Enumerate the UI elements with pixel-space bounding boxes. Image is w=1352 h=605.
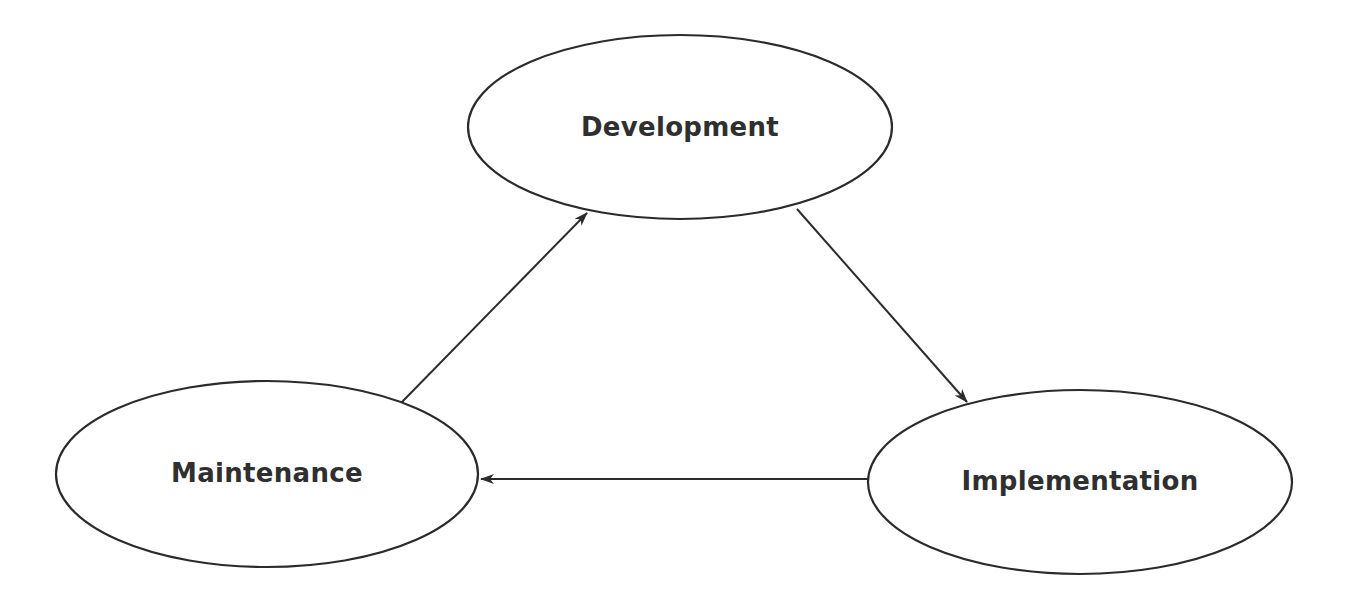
arrow-maintenance-to-development	[401, 213, 587, 403]
node-development: Development	[468, 35, 892, 219]
node-implementation: Implementation	[868, 390, 1292, 574]
implementation-label: Implementation	[961, 466, 1198, 496]
arrow-development-to-implementation	[797, 209, 967, 402]
cycle-diagram: Development Implementation Maintenance	[0, 0, 1352, 605]
maintenance-label: Maintenance	[171, 458, 363, 488]
node-maintenance: Maintenance	[56, 381, 478, 567]
development-label: Development	[581, 112, 779, 142]
